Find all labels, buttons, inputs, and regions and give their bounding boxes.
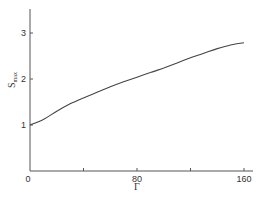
- y-axis-label: Smax: [6, 72, 18, 88]
- y-tick-label: 3: [21, 28, 26, 38]
- x-tick-label: 0: [25, 174, 30, 184]
- ticks: 080160123: [21, 28, 252, 184]
- y-tick-label: 1: [21, 120, 26, 130]
- x-tick-label: 160: [236, 174, 251, 184]
- axes: [30, 9, 253, 171]
- chart: 080160123 Γ Smax: [0, 0, 263, 204]
- y-axis-label-subscript: max: [12, 72, 18, 82]
- data-curve: [30, 43, 244, 125]
- x-axis-label: Γ: [134, 181, 140, 192]
- y-tick-label: 2: [21, 74, 26, 84]
